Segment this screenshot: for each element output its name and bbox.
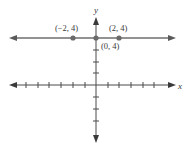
point-2-4 bbox=[116, 35, 121, 40]
x-axis-left-arrow-icon bbox=[9, 82, 17, 88]
coordinate-plane: x y bbox=[0, 0, 187, 149]
x-axis-label: x bbox=[177, 81, 182, 91]
y-axis: y bbox=[93, 5, 99, 143]
y-axis-label: y bbox=[93, 5, 98, 15]
point-neg2-4 bbox=[70, 35, 75, 40]
line-left-arrow-icon bbox=[9, 35, 17, 41]
point-0-4 bbox=[93, 35, 98, 40]
point-label-2-4: (2, 4) bbox=[109, 23, 128, 33]
point-label-0-4: (0, 4) bbox=[101, 41, 120, 51]
y-axis-up-arrow-icon bbox=[93, 17, 99, 25]
line-y-equals-4 bbox=[9, 35, 176, 41]
x-axis-right-arrow-icon bbox=[168, 82, 176, 88]
graph-svg: x y bbox=[0, 0, 187, 149]
point-label-neg2-4: (−2, 4) bbox=[55, 23, 78, 33]
y-axis-down-arrow-icon bbox=[93, 135, 99, 143]
line-right-arrow-icon bbox=[168, 35, 176, 41]
